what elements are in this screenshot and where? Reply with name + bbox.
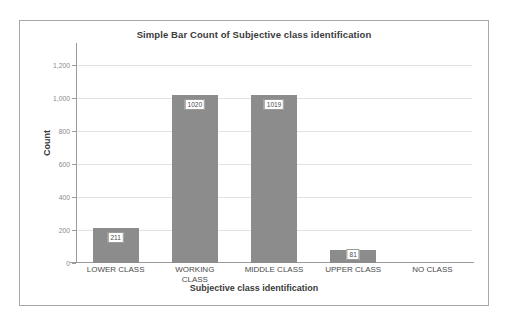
y-tick-label: 400 bbox=[59, 194, 70, 201]
chart-title: Simple Bar Count of Subjective class ide… bbox=[20, 29, 488, 40]
x-tick-label: LOWER CLASS bbox=[76, 265, 155, 285]
x-axis-title: Subjective class identification bbox=[20, 283, 488, 293]
y-tick-label: 800 bbox=[59, 128, 70, 135]
bar[interactable]: 1020 bbox=[172, 95, 218, 263]
y-axis-title: Count bbox=[42, 130, 52, 156]
y-tick-label: 0 bbox=[66, 260, 70, 267]
bar-slot: 1020 bbox=[155, 49, 234, 263]
x-tick-label: MIDDLE CLASS bbox=[234, 265, 313, 285]
plot-area: 02004006008001,0001,200 2111020101981 bbox=[76, 49, 472, 263]
bar-slot: 211 bbox=[76, 49, 155, 263]
bar-value-label: 81 bbox=[347, 249, 360, 260]
y-tick-label: 1,200 bbox=[53, 62, 70, 69]
x-tick-label: WORKINGCLASS bbox=[155, 265, 234, 285]
y-tick-label: 200 bbox=[59, 227, 70, 234]
chart-figure: Simple Bar Count of Subjective class ide… bbox=[19, 20, 489, 306]
x-tick-label: UPPER CLASS bbox=[314, 265, 393, 285]
bar-slot: 1019 bbox=[234, 49, 313, 263]
bar-value-label: 1019 bbox=[264, 99, 284, 110]
x-tick-label: NO CLASS bbox=[393, 265, 472, 285]
bar-slot: 81 bbox=[314, 49, 393, 263]
y-tick-label: 600 bbox=[59, 161, 70, 168]
bar[interactable]: 211 bbox=[93, 228, 139, 263]
bar-series: 2111020101981 bbox=[76, 49, 472, 263]
y-tick-label: 1,000 bbox=[53, 95, 70, 102]
x-axis-tick-labels: LOWER CLASSWORKINGCLASSMIDDLE CLASSUPPER… bbox=[76, 265, 472, 285]
bar[interactable]: 1019 bbox=[251, 95, 297, 263]
bar[interactable]: 81 bbox=[330, 250, 376, 263]
bar-value-label: 1020 bbox=[185, 99, 205, 110]
y-tick-mark bbox=[72, 263, 76, 264]
bar-slot bbox=[393, 49, 472, 263]
bar-value-label: 211 bbox=[107, 232, 123, 243]
